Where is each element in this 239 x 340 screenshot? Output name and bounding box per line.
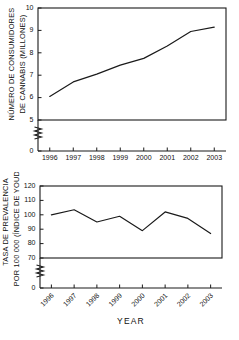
x-tick-label: 1999 [112, 154, 128, 161]
y-axis-title-line2: POR 100 000 (ÍNDICE DE YOUDEN) [12, 172, 21, 286]
x-axis-title: YEAR [117, 316, 145, 326]
x-tick-label: 1996 [42, 154, 58, 161]
y-tick-label: 100 [24, 211, 36, 218]
plot-frame [38, 8, 226, 120]
y-tick-label: 6 [30, 93, 34, 100]
y-tick-label: 5 [30, 116, 34, 123]
y-tick-label: 8 [30, 49, 34, 56]
y-tick-label: 90 [28, 225, 36, 232]
x-tick-label: 2001 [153, 292, 169, 308]
x-tick-label: 2002 [183, 154, 199, 161]
figure-root: 0567891019961997199819992000200120022003… [0, 0, 239, 340]
y-axis-title-line1: NÚMERO DE CONSUMIDORES [7, 8, 16, 121]
x-tick-label: 2003 [206, 154, 222, 161]
x-tick-label: 2003 [198, 292, 214, 308]
y-axis-title-line2: DE CANNABIS (MILLONES) [18, 15, 27, 114]
x-tick-label: 1998 [85, 292, 101, 308]
y-tick-label: 7 [30, 71, 34, 78]
x-tick-label: 2002 [176, 292, 192, 308]
data-series-line [51, 210, 210, 234]
y-axis-title-line1: TASA DE PREVALENCIA [1, 178, 10, 266]
y-tick-label: 120 [24, 182, 36, 189]
y-tick-label: 9 [30, 26, 34, 33]
x-tick-label: 2000 [136, 154, 152, 161]
chart-panel-cannabis-users: 0567891019961997199819992000200120022003… [0, 0, 239, 172]
x-tick-label: 1997 [62, 292, 78, 308]
y-tick-label: 70 [28, 254, 36, 261]
y-tick-label: 0 [30, 147, 34, 154]
y-tick-label: 110 [24, 196, 35, 203]
data-series-line [50, 27, 215, 96]
x-tick-label: 1999 [107, 292, 123, 308]
y-tick-label: 80 [28, 239, 36, 246]
cannabis-users-chart: 0567891019961997199819992000200120022003… [0, 0, 239, 172]
x-tick-label: 1996 [39, 292, 55, 308]
y-tick-label: 0 [32, 284, 36, 291]
x-tick-label: 2000 [130, 292, 146, 308]
y-tick-label: 10 [26, 4, 34, 11]
x-tick-label: 2001 [159, 154, 175, 161]
x-tick-label: 1997 [65, 154, 81, 161]
chart-panel-prevalence-rate: 0708090100110120199619971998199920002001… [0, 172, 239, 340]
plot-frame [40, 186, 222, 258]
x-tick-label: 1998 [89, 154, 105, 161]
prevalence-rate-chart: 0708090100110120199619971998199920002001… [0, 172, 239, 340]
